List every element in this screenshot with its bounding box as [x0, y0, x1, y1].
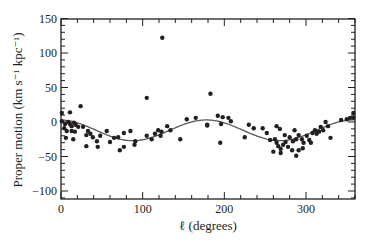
- data-point: [76, 125, 80, 129]
- data-point: [132, 143, 136, 147]
- data-point: [165, 124, 169, 128]
- data-point: [283, 140, 287, 144]
- data-point: [159, 129, 163, 133]
- data-point: [185, 117, 189, 121]
- data-point: [274, 124, 278, 128]
- data-point: [309, 141, 313, 145]
- data-point: [323, 120, 327, 124]
- data-point: [145, 134, 149, 138]
- data-point: [105, 129, 109, 133]
- data-points: [60, 36, 356, 158]
- data-point: [268, 138, 272, 142]
- data-point: [84, 133, 88, 137]
- data-point: [252, 126, 256, 130]
- data-point: [91, 135, 95, 139]
- data-point: [145, 96, 149, 100]
- axis-tick-labels: 0100200300−100−50050100150: [32, 12, 315, 217]
- x-tick-label: 100: [134, 202, 152, 216]
- data-point: [301, 141, 305, 145]
- data-point: [301, 146, 305, 150]
- data-point: [178, 137, 182, 141]
- data-point: [265, 131, 269, 135]
- data-point: [108, 140, 112, 144]
- data-point: [112, 136, 116, 140]
- data-point: [205, 123, 209, 127]
- y-tick-label: 50: [45, 81, 57, 95]
- data-point: [294, 154, 298, 158]
- data-point: [64, 136, 68, 140]
- data-point: [305, 134, 309, 138]
- data-point: [317, 129, 321, 133]
- x-axis-label: ℓ (degrees): [179, 218, 237, 233]
- data-point: [294, 137, 298, 141]
- data-point: [296, 148, 300, 152]
- data-point: [158, 134, 162, 138]
- data-point: [290, 148, 294, 152]
- data-point: [286, 145, 290, 149]
- data-point: [81, 125, 85, 129]
- data-point: [243, 135, 247, 139]
- x-tick-label: 200: [215, 202, 233, 216]
- data-point: [287, 135, 291, 139]
- data-point: [278, 151, 282, 155]
- y-tick-label: 150: [39, 12, 57, 26]
- data-point: [68, 110, 72, 114]
- data-point: [351, 111, 355, 115]
- data-point: [96, 145, 100, 149]
- axis-ticks: [61, 19, 355, 200]
- data-point: [208, 92, 212, 96]
- data-point: [95, 139, 99, 143]
- data-point: [229, 119, 233, 123]
- data-point: [328, 136, 332, 140]
- data-point: [60, 111, 64, 115]
- y-axis-label: Proper motion (km s⁻¹ kpc⁻¹): [10, 32, 25, 187]
- plot-border: [61, 19, 355, 199]
- data-point: [283, 133, 287, 137]
- data-point: [351, 116, 355, 120]
- plot-frame: [61, 19, 355, 199]
- data-point: [218, 141, 222, 145]
- data-point: [278, 147, 282, 151]
- data-point: [71, 137, 75, 141]
- data-point: [247, 123, 251, 127]
- data-point: [116, 135, 120, 139]
- data-point: [84, 144, 88, 148]
- data-point: [122, 145, 126, 149]
- data-point: [168, 128, 172, 132]
- data-point: [153, 132, 157, 136]
- data-point: [261, 126, 265, 130]
- data-point: [194, 116, 198, 120]
- data-point: [65, 129, 69, 133]
- x-tick-label: 300: [297, 202, 315, 216]
- data-point: [128, 129, 132, 133]
- data-point: [321, 128, 325, 132]
- data-point: [160, 36, 164, 40]
- y-tick-label: 100: [39, 46, 57, 60]
- data-point: [326, 124, 330, 128]
- data-point: [98, 134, 102, 138]
- x-tick-label: 0: [58, 202, 64, 216]
- data-point: [292, 128, 296, 132]
- data-point: [118, 148, 122, 152]
- y-tick-label: −100: [32, 184, 57, 198]
- data-point: [271, 149, 275, 153]
- data-point: [216, 114, 220, 118]
- y-tick-label: −50: [38, 150, 57, 164]
- data-point: [221, 115, 225, 119]
- data-point: [219, 122, 223, 126]
- data-point: [296, 133, 300, 137]
- data-point: [78, 104, 82, 108]
- data-point: [122, 131, 126, 135]
- data-point: [149, 137, 153, 141]
- scatter-chart: 0100200300−100−50050100150 ℓ (degrees) P…: [0, 0, 370, 243]
- data-point: [73, 129, 77, 133]
- y-tick-label: 0: [51, 115, 57, 129]
- data-point: [339, 118, 343, 122]
